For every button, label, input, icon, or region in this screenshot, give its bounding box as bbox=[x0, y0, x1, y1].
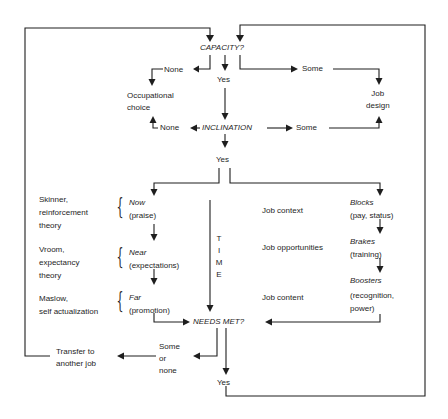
theory-skinner: Skinner, reinforcement theory bbox=[39, 193, 88, 232]
stage-now: Now bbox=[129, 198, 145, 208]
needs-yes-label: Yes bbox=[217, 378, 230, 388]
stage-now-detail: (praise) bbox=[129, 211, 156, 221]
needs-some-or-none-label: Some or none bbox=[159, 341, 180, 377]
brace-icon: { bbox=[117, 246, 124, 268]
stage-brakes: Brakes bbox=[350, 237, 375, 247]
stage-brakes-detail: (training) bbox=[350, 250, 382, 260]
occupational-choice-node: Occupational choice bbox=[127, 90, 174, 114]
job-design-node: Job design bbox=[366, 88, 390, 112]
stage-far-detail: (promotion) bbox=[129, 306, 170, 316]
needs-met-decision: NEEDS MET? bbox=[193, 317, 244, 327]
capacity-decision: CAPACITY? bbox=[200, 43, 244, 53]
brace-icon: { bbox=[117, 196, 124, 218]
time-letter: E bbox=[215, 269, 223, 280]
factor-job-context: Job context bbox=[262, 206, 303, 216]
inclination-none-label: None bbox=[160, 123, 179, 133]
time-letter: M bbox=[215, 257, 223, 268]
stage-near: Near bbox=[129, 248, 146, 258]
stage-near-detail: (expectations) bbox=[129, 261, 179, 271]
stage-boosters: Boosters bbox=[350, 276, 382, 286]
theory-vroom: Vroom, expectancy theory bbox=[39, 243, 79, 282]
loop-yes-to-capacity bbox=[226, 25, 425, 396]
theory-maslow: Maslow, self actualization bbox=[39, 292, 98, 318]
capacity-none-label: None bbox=[164, 65, 183, 75]
brace-icon: { bbox=[117, 290, 124, 312]
inclination-yes-label: Yes bbox=[216, 155, 229, 165]
stage-blocks: Blocks bbox=[350, 198, 374, 208]
capacity-some-label: Some bbox=[302, 64, 323, 74]
stage-far: Far bbox=[129, 293, 141, 303]
inclination-some-label: Some bbox=[296, 123, 317, 133]
factor-job-content: Job content bbox=[262, 293, 303, 303]
transfer-node: Transfer to another job bbox=[56, 346, 96, 370]
time-letter: T bbox=[215, 233, 223, 244]
factor-job-opportunities: Job opportunities bbox=[262, 243, 323, 253]
stage-boosters-detail: (recognition, power) bbox=[350, 289, 394, 315]
stage-blocks-detail: (pay, status) bbox=[350, 211, 393, 221]
capacity-yes-label: Yes bbox=[217, 75, 230, 85]
motivation-flowchart: CAPACITY? None Yes Some Occupational cho… bbox=[0, 0, 448, 419]
inclination-decision: INCLINATION bbox=[202, 123, 252, 133]
time-letter: I bbox=[215, 245, 223, 256]
